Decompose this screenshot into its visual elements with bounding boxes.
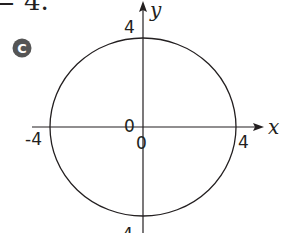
origin-label-y: 0: [136, 133, 147, 153]
y-tick-neg4: -4: [116, 224, 133, 233]
y-axis-label: y: [149, 0, 162, 22]
y-tick-4: 4: [124, 17, 135, 37]
part-c-badge: C: [13, 39, 32, 58]
origin-label-x: 0: [124, 116, 135, 136]
x-axis-label: x: [268, 115, 279, 139]
badge-label: C: [17, 41, 27, 56]
x-tick-4: 4: [238, 132, 249, 152]
x-tick-neg4: -4: [25, 129, 42, 149]
circle-diagram: = 4. C x y 4 -4 -4 4 0 0: [0, 0, 282, 233]
equation-fragment: = 4.: [0, 0, 49, 16]
